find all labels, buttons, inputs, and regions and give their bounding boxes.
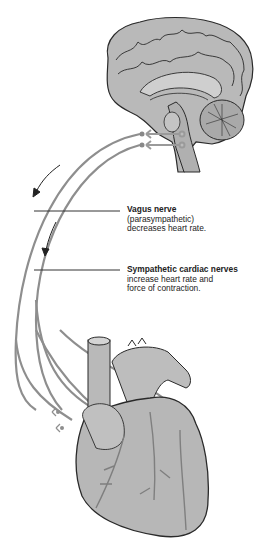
sympathetic-nerves-label: Sympathetic cardiac nerves increase hear… xyxy=(127,265,238,294)
vagus-nerve-line-2: decreases heart rate. xyxy=(127,224,206,234)
sympathetic-nerves-line-2: force of contraction. xyxy=(127,284,238,294)
vagus-nerve-label: Vagus nerve (parasympathetic) decreases … xyxy=(127,205,206,234)
heart-illustration xyxy=(76,337,208,537)
nerve-endings xyxy=(52,408,64,432)
